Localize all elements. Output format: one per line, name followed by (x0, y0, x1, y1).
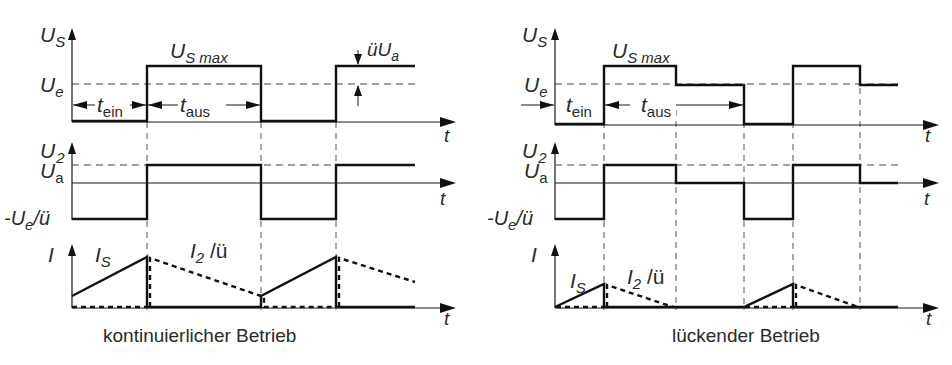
us-y-label: US (40, 23, 65, 50)
u2-x-axis-arrow-icon (440, 178, 456, 188)
is-label: IS (570, 269, 586, 296)
i-y-label: I (48, 243, 54, 266)
ue-label: Ue (40, 73, 64, 100)
us-plot: US Ue US max tein taus t (521, 23, 939, 146)
u2-x-label: t (440, 188, 446, 209)
neg-ue-label: -Ue/ü (4, 207, 50, 233)
i2-waveform-1 (150, 258, 336, 307)
flyback-timing-diagram: US Ue US max tein taus üUa t U2 Ua -Ue/ü… (0, 0, 952, 365)
i-plot: I IS I2 /ü t (48, 239, 456, 329)
i-plot: I IS I2 /ü t (531, 243, 939, 329)
i-y-label: I (531, 243, 537, 266)
i-y-axis-arrow-icon (551, 244, 559, 256)
u2-plot: U2 Ua -Ue/ü t (4, 139, 456, 233)
usmax-label: US max (170, 39, 228, 66)
us-plot: US Ue US max tein taus üUa t (40, 23, 456, 146)
u2-y-axis-arrow-icon (68, 142, 76, 154)
panel-discontinuous: US Ue US max tein taus t U2 Ua -Ue/ü t (487, 23, 939, 346)
us-y-label: US (522, 23, 547, 50)
us-x-label: t (444, 125, 450, 146)
i2-label: I2 /ü (190, 239, 228, 266)
u2-x-axis-arrow-icon (923, 178, 939, 188)
tein-label: tein (566, 93, 592, 120)
u2-y-axis-arrow-icon (551, 142, 559, 154)
usmax-label: US max (612, 39, 670, 66)
u2-x-label: t (924, 188, 930, 209)
us-waveform (555, 66, 898, 124)
time-guides (147, 122, 336, 310)
caption-continuous: kontinuierlicher Betrieb (103, 325, 296, 346)
ue-label: Ue (524, 73, 548, 100)
neg-ue-label: -Ue/ü (487, 207, 533, 233)
us-y-axis-arrow-icon (551, 28, 559, 40)
i-x-label: t (444, 308, 450, 329)
u2-waveform (555, 165, 898, 219)
us-y-axis-arrow-icon (68, 28, 76, 40)
i-x-label: t (926, 308, 932, 329)
caption-discontinuous: lückender Betrieb (672, 325, 820, 346)
panel-continuous: US Ue US max tein taus üUa t U2 Ua -Ue/ü… (4, 23, 456, 346)
u2-waveform (72, 165, 415, 219)
uua-label: üUa (367, 39, 399, 64)
is-label: IS (95, 243, 111, 270)
i2-label: I2 /ü (627, 265, 665, 292)
u2-plot: U2 Ua -Ue/ü t (487, 139, 939, 233)
i-y-axis-arrow-icon (68, 244, 76, 256)
i2-waveform-2 (796, 285, 858, 307)
us-x-label: t (925, 125, 931, 146)
i2-waveform-2 (339, 258, 415, 307)
